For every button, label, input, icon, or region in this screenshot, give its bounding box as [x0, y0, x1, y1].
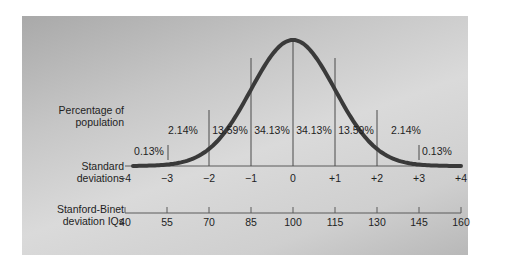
iq-tick-label: 40	[119, 216, 131, 228]
iq-tick-label: 145	[410, 216, 428, 228]
band-pct: 2.14%	[391, 124, 421, 136]
band-pct: 0.13%	[134, 145, 164, 157]
sd-tick-label: +3	[413, 172, 425, 184]
sd-label: Standard deviations	[30, 160, 124, 184]
sd-tick-label: +1	[329, 172, 341, 184]
iq-tick-label: 70	[203, 216, 215, 228]
sd-label-line1: Standard	[30, 160, 124, 172]
sd-label-line2: deviations	[30, 172, 124, 184]
percentage-label-line2: population	[30, 116, 124, 128]
band-pct: 13.59%	[338, 124, 374, 136]
sd-tick-label: 0	[290, 172, 296, 184]
percentage-label: Percentage of population	[30, 104, 124, 128]
iq-tick-label: 115	[327, 216, 344, 228]
iq-label: Stanford-Binet deviation IQs	[20, 203, 124, 227]
sd-tick-label: +4	[455, 172, 467, 184]
sd-tick-label: +2	[371, 172, 383, 184]
iq-axis-ticks	[125, 207, 461, 213]
percentage-label-line1: Percentage of	[30, 104, 124, 116]
iq-tick-label: 100	[284, 216, 302, 228]
iq-label-line2: deviation IQs	[20, 215, 124, 227]
iq-tick-label: 55	[161, 216, 173, 228]
band-pct: 34.13%	[254, 124, 290, 136]
iq-tick-label: 85	[245, 216, 257, 228]
sd-tick-label: −3	[161, 172, 173, 184]
iq-label-line1: Stanford-Binet	[20, 203, 124, 215]
band-pct: 0.13%	[422, 145, 452, 157]
normal-curve	[133, 40, 461, 166]
sd-tick-label: −4	[119, 172, 131, 184]
iq-tick-label: 160	[452, 216, 470, 228]
normal-curve-plot	[0, 0, 508, 273]
band-pct: 34.13%	[296, 124, 332, 136]
band-pct: 13.59%	[212, 124, 248, 136]
band-pct: 2.14%	[168, 124, 198, 136]
iq-tick-label: 130	[368, 216, 386, 228]
sd-tick-label: −2	[203, 172, 215, 184]
sd-tick-label: −1	[245, 172, 257, 184]
